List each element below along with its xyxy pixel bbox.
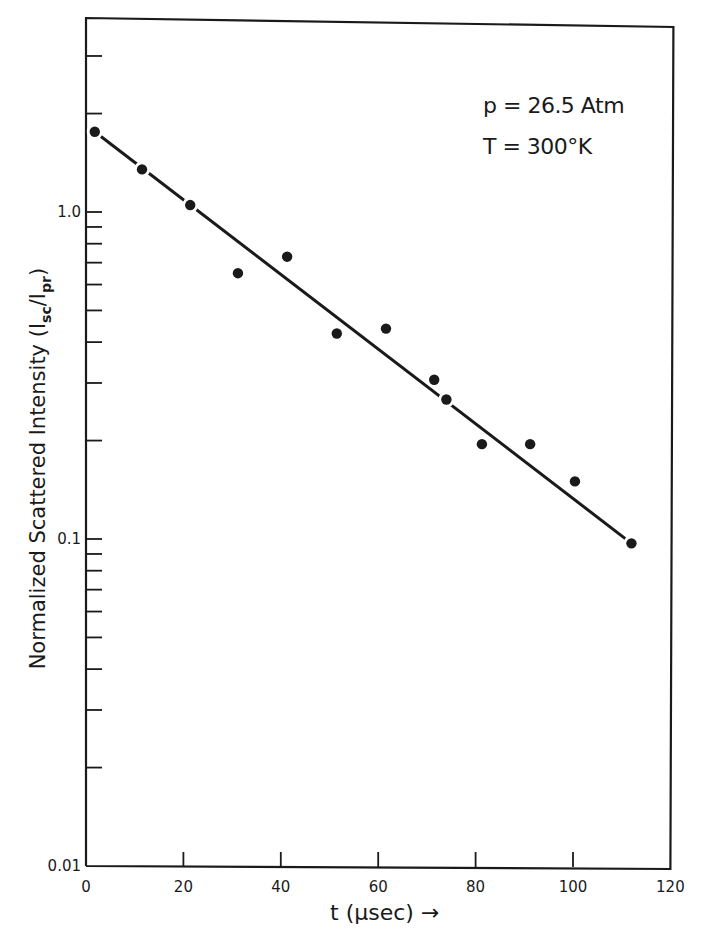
- data-point-marker: [185, 200, 195, 210]
- y-label-sub-pr: pr: [38, 276, 54, 293]
- data-point-marker: [332, 328, 342, 338]
- x-tick-label: 80: [466, 878, 485, 896]
- x-label-var: t: [330, 900, 339, 925]
- x-tick-label: 60: [369, 878, 388, 896]
- data-point-marker: [570, 476, 580, 486]
- temperature-annotation: T = 300°K: [483, 134, 592, 159]
- data-point-marker: [233, 268, 243, 278]
- x-label-unit: (μsec): [346, 900, 414, 925]
- y-label-sub-sc: sc: [38, 306, 54, 323]
- x-tick-label: 0: [81, 878, 91, 896]
- data-point-marker: [441, 394, 451, 404]
- axis-ticks: [86, 56, 573, 867]
- y-label-main: Normalized Scattered Intensity (I: [26, 323, 50, 669]
- y-tick-label: 1.0: [57, 203, 81, 221]
- data-point-marker: [477, 439, 487, 449]
- x-tick-label: 100: [559, 878, 588, 896]
- x-tick-label: 20: [174, 878, 193, 896]
- axis-tick-labels: 0204060801001201.00.10.01: [48, 203, 685, 896]
- x-tick-label: 120: [656, 878, 685, 896]
- data-point-marker: [282, 251, 292, 261]
- y-tick-label: 0.1: [57, 530, 81, 548]
- data-point-marker: [626, 538, 636, 548]
- y-label-end: ): [26, 268, 50, 276]
- data-point-marker: [137, 164, 147, 174]
- data-point-marker: [381, 323, 391, 333]
- x-label-arrow-icon: →: [421, 900, 439, 925]
- chart-canvas: 0204060801001201.00.10.01: [0, 0, 712, 948]
- y-tick-label: 0.01: [48, 857, 81, 875]
- x-tick-label: 40: [271, 878, 290, 896]
- fit-line: [95, 132, 632, 544]
- y-axis-label: Normalized Scattered Intensity (Isc/Ipr): [26, 219, 53, 719]
- y-label-mid: /I: [26, 293, 50, 306]
- data-point-marker: [525, 439, 535, 449]
- data-point-marker: [90, 127, 100, 137]
- pressure-annotation: p = 26.5 Atm: [483, 93, 624, 118]
- x-axis-label: t (μsec) →: [330, 900, 439, 925]
- data-point-marker: [429, 375, 439, 385]
